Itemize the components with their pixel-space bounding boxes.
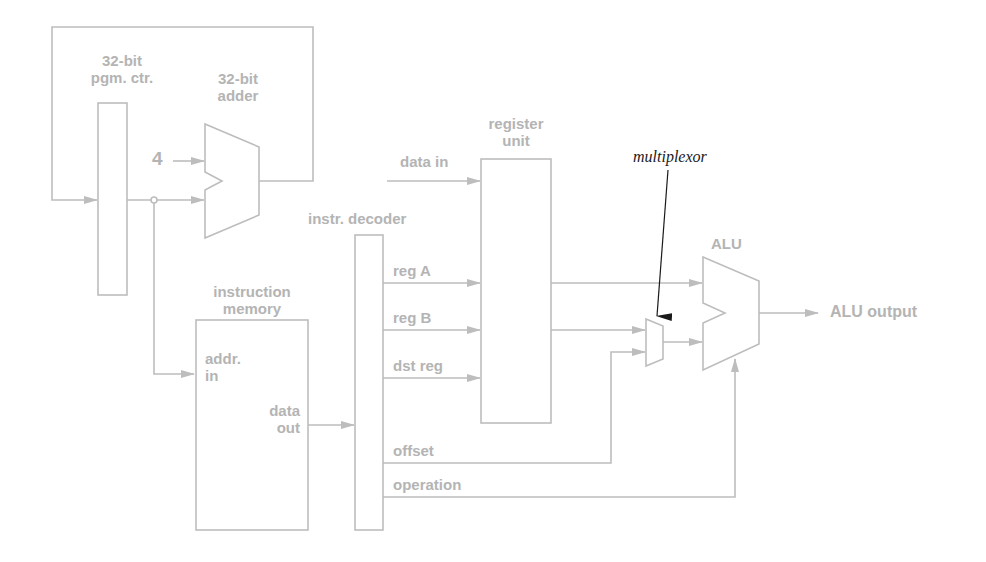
offset-label: offset [393,442,434,459]
decoder-block [355,235,383,530]
imem-data-out-label: data out [254,402,300,436]
reg-b-label: reg B [393,309,431,326]
pc-block [98,103,127,295]
dst-reg-label: dst reg [393,357,443,374]
reg-a-label: reg A [393,262,431,279]
imem-label: instruction memory [196,283,308,317]
mux-annotation-arrow [657,170,668,316]
decoder-label: instr. decoder [308,210,406,227]
adder-label-line2: adder [200,87,276,104]
imem-addr-in-label: addr. in [205,350,241,384]
alu-output-label: ALU output [830,303,917,320]
regunit-label: register unit [476,115,556,149]
regunit-label-line2: unit [476,132,556,149]
junction-dot [151,197,157,203]
regunit-label-line1: register [476,115,556,132]
adder-block [205,124,259,238]
pc-label-line1: 32-bit [84,52,160,69]
adder-label-line1: 32-bit [200,70,276,87]
operation-label: operation [393,476,461,493]
alu-block [703,257,759,370]
pc-label-line2: pgm. ctr. [84,69,160,86]
out-label: out [254,419,300,436]
data-label: data [254,402,300,419]
adder-constant-4: 4 [152,150,163,167]
regunit-block [481,159,551,423]
datapath-diagram: 32-bit pgm. ctr. 32-bit adder 4 instruct… [0,0,986,562]
adder-label: 32-bit adder [200,70,276,104]
imem-label-line1: instruction [196,283,308,300]
mux-block [646,319,663,366]
imem-label-line2: memory [196,300,308,317]
pc-to-imem-wire [154,203,194,374]
alu-label: ALU [711,235,742,252]
in-label: in [205,367,241,384]
multiplexor-annotation: multiplexor [633,148,707,166]
pc-label: 32-bit pgm. ctr. [84,52,160,86]
addr-label: addr. [205,350,241,367]
data-in-label: data in [400,153,448,170]
